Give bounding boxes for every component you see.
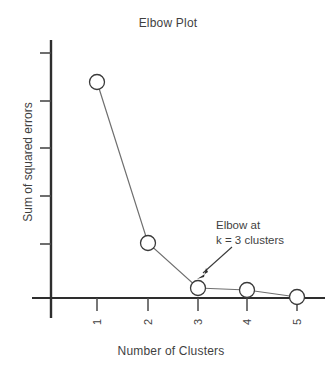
plot-canvas bbox=[0, 0, 336, 369]
elbow-plot-figure: Elbow Plot Sum of squared errors 1 2 3 bbox=[0, 0, 336, 369]
data-line bbox=[97, 82, 297, 297]
data-point-marker[interactable] bbox=[141, 236, 156, 251]
annotation-line-2: k = 3 clusters bbox=[216, 233, 284, 248]
x-tick-label-2: 2 bbox=[142, 307, 154, 337]
annotation-line-1: Elbow at bbox=[216, 218, 284, 233]
data-point-marker[interactable] bbox=[290, 290, 305, 305]
data-point-marker[interactable] bbox=[240, 283, 255, 298]
x-tick-label-4: 4 bbox=[241, 307, 253, 337]
x-tick-label-1: 1 bbox=[91, 307, 103, 337]
x-tick-label-3: 3 bbox=[192, 307, 204, 337]
x-tick-label-5: 5 bbox=[291, 307, 303, 337]
data-point-marker[interactable] bbox=[90, 75, 105, 90]
data-point-marker[interactable] bbox=[191, 281, 206, 296]
elbow-annotation: Elbow at k = 3 clusters bbox=[216, 218, 284, 248]
annotation-arrow-line bbox=[203, 247, 232, 273]
annotation-arrow-head bbox=[197, 268, 208, 279]
x-axis-label: Number of Clusters bbox=[40, 344, 302, 358]
